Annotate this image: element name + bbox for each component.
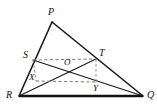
label-S: S	[23, 49, 28, 60]
label-Y: Y	[93, 83, 99, 93]
label-T: T	[99, 47, 106, 58]
label-O: O	[64, 57, 71, 67]
label-R: R	[5, 89, 12, 100]
geometry-figure: P Q R S T O X Y	[0, 0, 157, 105]
figure-canvas: P Q R S T O X Y	[0, 0, 157, 105]
segment-XY-dashed	[36, 81, 96, 82]
label-X: X	[28, 72, 35, 82]
label-Q: Q	[147, 89, 155, 100]
label-P: P	[47, 6, 54, 17]
segment-SQ	[33, 60, 143, 96]
